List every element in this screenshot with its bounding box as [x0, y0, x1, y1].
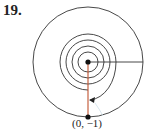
center-dot: [85, 59, 90, 64]
spiral-diagram: [0, 0, 147, 132]
spiral-outer-arc-bottom: [60, 62, 88, 90]
figure: 19. (0, −1): [0, 0, 147, 132]
point-label: (0, −1): [72, 117, 102, 129]
spiral-outer-arc-top: [60, 34, 116, 62]
arrowhead-icon: [89, 97, 95, 103]
faint-guide-curve: [95, 103, 103, 116]
